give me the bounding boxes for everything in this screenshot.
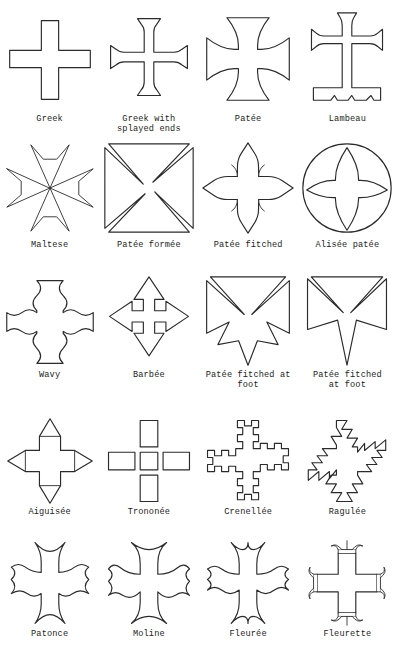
cross-grid: Greek Greek with splayed ends Patée Lamb… bbox=[0, 0, 397, 649]
figure-cell-patee-fitched-at-foot-b: Patée fitched at foot bbox=[298, 270, 397, 410]
figure-cell-barbee: Barbée bbox=[99, 270, 198, 410]
figure-cell-lambeau: Lambeau bbox=[298, 0, 397, 135]
patee-formee-cross-icon bbox=[101, 138, 197, 238]
figure-cell-patonce: Patonce bbox=[0, 530, 99, 649]
figure-label: Moline bbox=[133, 629, 165, 639]
figure-label: Lambeau bbox=[329, 114, 366, 124]
fleurette-cross-icon bbox=[299, 539, 395, 627]
figure-label: Trononée bbox=[128, 507, 170, 517]
figure-cell-crenellee: Crenellée bbox=[199, 410, 298, 530]
figure-label: Greek with splayed ends bbox=[117, 114, 181, 135]
patee-fitched-cross-icon bbox=[200, 138, 296, 238]
figure-cell-greek-splayed-ends: Greek with splayed ends bbox=[99, 0, 198, 135]
maltese-cross-icon bbox=[2, 138, 98, 238]
greek-cross-splayed-ends-icon bbox=[101, 5, 197, 113]
lambeau-cross-icon bbox=[299, 5, 395, 113]
figure-label: Fleurée bbox=[230, 629, 267, 639]
figure-label: Maltese bbox=[31, 240, 68, 250]
figure-cell-moline: Moline bbox=[99, 530, 198, 649]
figure-cell-patee-fitched-at-foot-a: Patée fitched at foot bbox=[199, 270, 298, 410]
figure-label: Wavy bbox=[39, 370, 60, 380]
figure-cell-aiguisee: Aiguisée bbox=[0, 410, 99, 530]
patee-cross-icon bbox=[200, 5, 296, 113]
aiguisee-cross-icon bbox=[2, 417, 98, 505]
figure-label: Patée fitched at foot bbox=[206, 370, 291, 391]
patee-fitched-at-foot-cross-b-icon bbox=[299, 275, 395, 369]
figure-cell-patee-formee: Patée formée bbox=[99, 135, 198, 270]
figure-label: Aiguisée bbox=[28, 507, 70, 517]
figure-cell-trononee: Trononée bbox=[99, 410, 198, 530]
cross-chart-sheet: Greek Greek with splayed ends Patée Lamb… bbox=[0, 0, 397, 649]
figure-label: Patée fitched at foot bbox=[313, 370, 382, 391]
fleuree-cross-icon bbox=[200, 539, 296, 627]
figure-cell-patee-fitched: Patée fitched bbox=[199, 135, 298, 270]
figure-label: Alisée patée bbox=[316, 240, 380, 250]
alisee-patee-cross-icon bbox=[299, 138, 395, 238]
crenellee-cross-icon bbox=[200, 417, 296, 505]
figure-cell-wavy: Wavy bbox=[0, 270, 99, 410]
ragulee-cross-icon bbox=[299, 417, 395, 505]
figure-cell-greek: Greek bbox=[0, 0, 99, 135]
greek-cross-icon bbox=[2, 5, 98, 113]
figure-cell-fleurette: Fleurette bbox=[298, 530, 397, 649]
figure-cell-fleuree: Fleurée bbox=[199, 530, 298, 649]
figure-label: Ragulée bbox=[329, 507, 366, 517]
moline-cross-icon bbox=[101, 539, 197, 627]
figure-label: Greek bbox=[36, 114, 63, 124]
trononee-cross-icon bbox=[101, 417, 197, 505]
figure-label: Fleurette bbox=[323, 629, 371, 639]
figure-label: Patée fitched bbox=[214, 240, 283, 250]
wavy-cross-icon bbox=[2, 275, 98, 369]
patee-fitched-at-foot-cross-a-icon bbox=[200, 275, 296, 369]
figure-cell-ragulee: Ragulée bbox=[298, 410, 397, 530]
figure-cell-alisee-patee: Alisée patée bbox=[298, 135, 397, 270]
barbee-cross-icon bbox=[101, 275, 197, 369]
figure-label: Patée formée bbox=[117, 240, 181, 250]
figure-label: Patonce bbox=[31, 629, 68, 639]
figure-cell-maltese: Maltese bbox=[0, 135, 99, 270]
figure-label: Patée bbox=[235, 114, 262, 124]
figure-label: Barbée bbox=[133, 370, 165, 380]
figure-label: Crenellée bbox=[224, 507, 272, 517]
patonce-cross-icon bbox=[2, 539, 98, 627]
figure-cell-patee: Patée bbox=[199, 0, 298, 135]
